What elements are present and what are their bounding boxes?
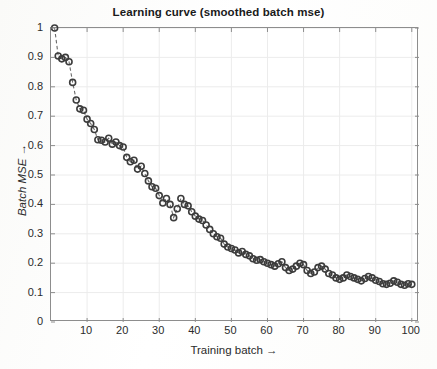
y-tick-label: 0.8 (0, 80, 43, 92)
chart-title: Learning curve (smoothed batch mse) (0, 6, 437, 18)
x-tick-label: 60 (246, 324, 286, 336)
y-tick-label: 0.9 (0, 50, 43, 62)
plot-area (50, 27, 418, 321)
screenshot-page: Learning curve (smoothed batch mse) 00.1… (0, 0, 437, 369)
x-tick-label: 50 (210, 324, 250, 336)
x-tick-label: 40 (174, 324, 214, 336)
x-tick-label: 30 (138, 324, 178, 336)
y-axis-label: Batch MSE → (16, 100, 28, 260)
figure-canvas: Learning curve (smoothed batch mse) 00.1… (0, 0, 437, 369)
x-tick-label: 10 (66, 324, 106, 336)
x-tick-label: 80 (319, 324, 359, 336)
x-tick-label: 70 (283, 324, 323, 336)
axis-ticks (51, 28, 421, 330)
x-tick-label: 90 (355, 324, 395, 336)
x-tick-label: 100 (391, 324, 431, 336)
y-tick-label: 1 (0, 21, 43, 33)
y-tick-label: 0.1 (0, 286, 43, 298)
x-tick-label: 20 (102, 324, 142, 336)
x-axis-label: Training batch → (50, 344, 418, 356)
y-tick-label: 0 (0, 315, 43, 327)
